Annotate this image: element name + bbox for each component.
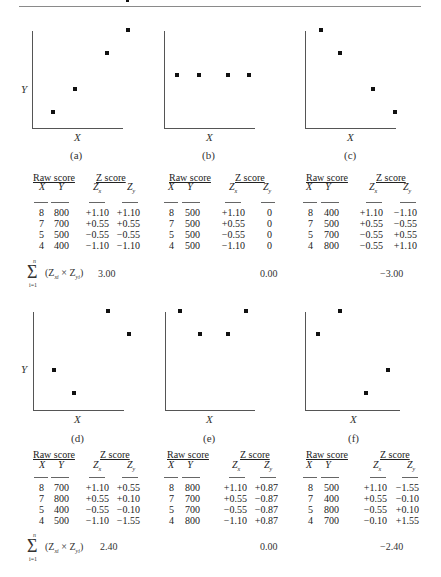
cell-x: 4 xyxy=(36,240,44,251)
data-point xyxy=(51,110,55,114)
col-x-header: X xyxy=(166,181,176,192)
col-y-header: Y xyxy=(322,181,334,192)
x-axis-label: X xyxy=(347,131,354,143)
col-x-header: X xyxy=(166,459,176,470)
rule xyxy=(51,477,69,478)
y-axis xyxy=(305,312,306,410)
cell-zx: −1.10 xyxy=(218,240,245,251)
cell-x: 5 xyxy=(166,229,174,240)
cell-x: 7 xyxy=(166,218,174,229)
cell-x: 5 xyxy=(166,504,174,515)
cell-x: 7 xyxy=(36,218,44,229)
cell-zx: +0.55 xyxy=(356,218,383,229)
y-axis xyxy=(32,31,33,129)
cell-x: 4 xyxy=(166,240,174,251)
cell-x: 8 xyxy=(166,482,174,493)
data-point xyxy=(338,309,342,313)
cell-x: 8 xyxy=(36,207,44,218)
col-y-header: Y xyxy=(322,459,334,470)
cell-zx: −1.10 xyxy=(82,515,109,526)
data-point xyxy=(244,309,248,313)
rule xyxy=(366,202,382,203)
col-zy-header: Zy xyxy=(261,459,275,472)
data-point xyxy=(371,87,375,91)
cell-x: 7 xyxy=(305,493,313,504)
y-axis xyxy=(165,312,166,410)
x-axis xyxy=(165,410,255,411)
cell-x: 4 xyxy=(36,515,44,526)
y-axis xyxy=(33,312,34,410)
rule xyxy=(51,202,69,203)
cell-y: 400 xyxy=(50,504,69,515)
panel-caption: (f) xyxy=(348,432,359,444)
top-rule xyxy=(19,6,421,7)
data-point xyxy=(198,332,202,336)
data-point xyxy=(226,73,230,77)
col-zy-header: Zy xyxy=(404,459,418,472)
cell-x: 7 xyxy=(36,493,44,504)
data-point xyxy=(105,51,109,55)
cell-y: 500 xyxy=(181,207,200,218)
x-axis-label: X xyxy=(74,413,81,425)
cell-zx: +1.10 xyxy=(82,482,109,493)
rule xyxy=(303,202,317,203)
cell-y: 500 xyxy=(181,240,200,251)
col-zx-header: Zx xyxy=(90,459,104,472)
cell-zx: −0.55 xyxy=(356,240,383,251)
cell-y: 700 xyxy=(181,504,200,515)
cell-y: 700 xyxy=(320,229,339,240)
panel-caption: (c) xyxy=(344,149,356,161)
x-axis-label: X xyxy=(206,413,213,425)
data-point xyxy=(197,73,201,77)
col-x-header: X xyxy=(304,459,314,470)
data-point xyxy=(126,28,130,32)
cell-y: 800 xyxy=(50,207,69,218)
rule xyxy=(89,477,105,478)
cell-y: 400 xyxy=(50,240,69,251)
sum-value: −2.40 xyxy=(380,541,403,552)
col-zy-header: Zy xyxy=(124,181,138,194)
rule xyxy=(229,477,245,478)
rule xyxy=(321,202,339,203)
col-zy-header: Zy xyxy=(124,459,138,472)
cell-zx: −1.10 xyxy=(82,240,109,251)
cell-x: 5 xyxy=(36,504,44,515)
cell-zx: +1.10 xyxy=(218,207,245,218)
data-point xyxy=(226,332,230,336)
col-zx-header: Zx xyxy=(90,181,104,194)
cell-x: 4 xyxy=(305,240,313,251)
cell-zy: +1.10 xyxy=(390,240,417,251)
rule xyxy=(225,202,241,203)
cell-zy: +0.10 xyxy=(392,504,419,515)
rule xyxy=(321,477,339,478)
col-zx-header: Zx xyxy=(366,181,380,194)
cell-y: 500 xyxy=(181,218,200,229)
cell-zy: −0.87 xyxy=(251,493,278,504)
x-axis-label: X xyxy=(350,413,357,425)
cell-x: 7 xyxy=(305,218,313,229)
rule xyxy=(122,477,138,478)
cell-y: 500 xyxy=(50,515,69,526)
cell-zx: +1.10 xyxy=(356,207,383,218)
cell-y: 400 xyxy=(320,493,339,504)
cell-zx: −0.55 xyxy=(82,504,109,515)
data-point xyxy=(386,368,390,372)
y-axis-label: Y xyxy=(21,83,27,95)
x-axis xyxy=(164,128,255,129)
cell-zy: +0.55 xyxy=(113,218,140,229)
col-y-header: Y xyxy=(184,181,196,192)
rule xyxy=(122,202,138,203)
col-zx-header: Zx xyxy=(226,181,240,194)
cell-zx: −0.55 xyxy=(220,504,247,515)
sum-formula: n Σ (Zxi × Zyi) i=1 xyxy=(27,258,97,292)
cell-zx: −0.10 xyxy=(360,515,387,526)
cell-x: 7 xyxy=(166,493,174,504)
sum-value: 0.00 xyxy=(260,268,278,279)
col-zy-header: Zy xyxy=(260,181,274,194)
cell-zy: +0.87 xyxy=(251,482,278,493)
rule xyxy=(89,202,105,203)
cell-y: 700 xyxy=(320,515,339,526)
data-point xyxy=(127,332,131,336)
x-axis xyxy=(305,128,396,129)
cell-zx: +1.10 xyxy=(82,207,109,218)
